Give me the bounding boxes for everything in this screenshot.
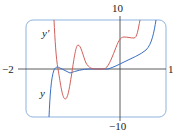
y-max-label: 10 xyxy=(112,3,123,14)
plot-canvas xyxy=(0,0,181,138)
yprime-curve xyxy=(54,20,140,99)
yprime-curve-label: y′ xyxy=(42,28,49,39)
y-curve-label: y xyxy=(40,88,45,99)
x-min-label: −2 xyxy=(2,64,14,75)
x-max-label: 1 xyxy=(168,64,174,75)
y-min-label: −10 xyxy=(109,121,126,132)
